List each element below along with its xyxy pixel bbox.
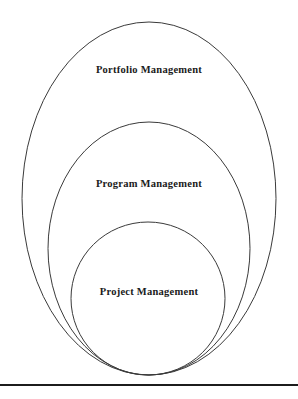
project-management-label: Project Management	[0, 286, 298, 297]
footer-horizontal-rule	[0, 384, 298, 386]
project-management-circle	[71, 222, 225, 375]
program-management-ellipse	[48, 122, 250, 375]
program-management-label: Program Management	[0, 178, 298, 189]
nested-ellipses-graphic	[0, 0, 298, 399]
diagram-canvas: Portfolio Management Program Management …	[0, 0, 298, 399]
portfolio-management-label: Portfolio Management	[0, 64, 298, 75]
